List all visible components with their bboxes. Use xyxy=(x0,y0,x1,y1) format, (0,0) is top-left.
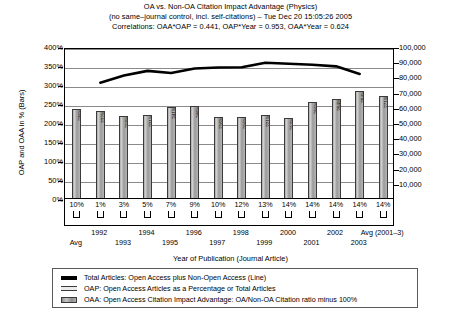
y-axis-left-tick-mark xyxy=(58,143,63,144)
oap-percent-label: 3% xyxy=(111,200,137,209)
y-axis-left-tick-label: 50% xyxy=(3,177,63,185)
oap-percent-label: 14% xyxy=(323,200,349,209)
chart-title-line-2: (no same–journal control, incl. self-cit… xyxy=(0,12,461,22)
y-axis-left-title: OAP and OAA in % (Bars) xyxy=(17,48,26,218)
y-axis-left-tick-mark xyxy=(58,86,63,87)
x-axis-tick-box xyxy=(144,211,151,218)
x-axis-category-label: 1992 xyxy=(78,228,120,237)
legend-item: OAP: Open Access Articles as a Percentag… xyxy=(53,283,417,294)
chart-title-line-1: OA vs. Non-OA Citation Impact Advantage … xyxy=(0,2,461,12)
x-axis-tick-box xyxy=(191,211,198,218)
x-axis-category-label: 2001 xyxy=(291,238,333,247)
oap-percent-label: 5% xyxy=(135,200,161,209)
oap-percent-label: 14% xyxy=(347,200,373,209)
oap-percent-label: 10% xyxy=(205,200,231,209)
oap-percent-label: 1% xyxy=(87,200,113,209)
x-axis-tick-box xyxy=(215,211,222,218)
y-axis-left-tick-mark xyxy=(58,105,63,106)
x-axis-category-label: 1998 xyxy=(220,228,262,237)
x-axis-tick-box xyxy=(238,211,245,218)
oap-label-band: 10%1%3%5%7%9%10%12%13%14%14%14%14%14% xyxy=(65,198,393,225)
x-axis-category-label: Avg xyxy=(55,238,97,247)
x-axis-category-label: 1997 xyxy=(196,238,238,247)
x-axis-tick-box xyxy=(285,211,292,218)
y-axis-right-tick-label: 30,000 xyxy=(399,150,457,158)
y-axis-right-tick-label: 90,000 xyxy=(399,59,457,67)
y-axis-left-tick-mark xyxy=(58,48,63,49)
y-axis-left-tick-label: 150% xyxy=(3,139,63,147)
y-axis-left-tick-mark xyxy=(58,124,63,125)
x-axis-category-label: 2003 xyxy=(338,238,380,247)
y-axis-right-tick-label: 80,000 xyxy=(399,74,457,82)
legend-swatch-oap xyxy=(61,286,77,291)
x-axis-tick-box xyxy=(120,211,127,218)
oap-percent-label: 14% xyxy=(300,200,326,209)
y-axis-left-tick-mark xyxy=(58,67,63,68)
y-axis-right-tick-label: 10,000 xyxy=(399,181,457,189)
oap-percent-label: 10% xyxy=(64,200,90,209)
y-axis-right-tick-label: 20,000 xyxy=(399,166,457,174)
oap-percent-label: 7% xyxy=(158,200,184,209)
x-axis-category-label: 1994 xyxy=(126,228,168,237)
legend-swatch-line xyxy=(61,276,77,280)
y-axis-left-tick-mark xyxy=(58,181,63,182)
y-axis-right-tick-label: 100,000 xyxy=(399,44,457,52)
legend-label: OAP: Open Access Articles as a Percentag… xyxy=(84,284,276,293)
y-axis-left-tick-label: 250% xyxy=(3,101,63,109)
oap-percent-label: 13% xyxy=(252,200,278,209)
legend-label: Total Articles: Open Access plus Non-Ope… xyxy=(84,273,266,282)
x-axis-tick-box xyxy=(356,211,363,218)
x-axis-category-label: 2000 xyxy=(267,228,309,237)
y-axis-left-tick-mark xyxy=(58,200,63,201)
x-axis-tick-box xyxy=(73,211,80,218)
legend-label: OAA: Open Access Citation Impact Advanta… xyxy=(84,295,357,304)
chart-legend: Total Articles: Open Access plus Non-Ope… xyxy=(52,268,418,308)
y-axis-left-tick-label: 400% xyxy=(3,44,63,52)
x-axis-tick-box xyxy=(262,211,269,218)
oap-percent-label: 12% xyxy=(229,200,255,209)
y-axis-right-tick-label: 70,000 xyxy=(399,90,457,98)
x-axis-category-label: 1993 xyxy=(102,238,144,247)
y-axis-right-tick-label: 60,000 xyxy=(399,105,457,113)
oap-percent-label: 14% xyxy=(370,200,396,209)
chart-title-line-3: Correlations: OAA*OAP = 0.441, OAP*Year … xyxy=(0,22,461,32)
oap-percent-label: 9% xyxy=(182,200,208,209)
y-axis-left-tick-label: 100% xyxy=(3,158,63,166)
y-axis-left-tick-label: 350% xyxy=(3,63,63,71)
x-axis-tick-box xyxy=(380,211,387,218)
x-axis-tick-box xyxy=(309,211,316,218)
oap-percent-label: 14% xyxy=(276,200,302,209)
y-axis-left-tick-mark xyxy=(58,162,63,163)
x-axis-tick-box xyxy=(97,211,104,218)
x-axis-category-label: 1995 xyxy=(149,238,191,247)
x-axis-title: Year of Publication (Journal Article) xyxy=(0,254,461,263)
legend-swatch-oaa xyxy=(61,297,77,303)
y-axis-right-tick-label: 50,000 xyxy=(399,120,457,128)
x-axis-category-label: 1996 xyxy=(173,228,215,237)
chart-root: OA vs. Non-OA Citation Impact Advantage … xyxy=(0,0,461,328)
x-axis-tick-box xyxy=(333,211,340,218)
chart-title-block: OA vs. Non-OA Citation Impact Advantage … xyxy=(0,2,461,32)
y-axis-right-tick-label: 40,000 xyxy=(399,135,457,143)
legend-item: Total Articles: Open Access plus Non-Ope… xyxy=(53,272,417,283)
y-axis-left-tick-label: 300% xyxy=(3,82,63,90)
plot-area: 236%232%218%221%241%246%216%216%221%213%… xyxy=(64,48,394,226)
x-axis-category-label: 1999 xyxy=(243,238,285,247)
y-axis-left-tick-label: 0% xyxy=(3,196,63,204)
x-axis-category-label: Avg (2001–3) xyxy=(350,228,414,237)
x-axis-tick-box xyxy=(168,211,175,218)
legend-item: OAA: Open Access Citation Impact Advanta… xyxy=(53,294,417,305)
y-axis-left-tick-label: 200% xyxy=(3,120,63,128)
